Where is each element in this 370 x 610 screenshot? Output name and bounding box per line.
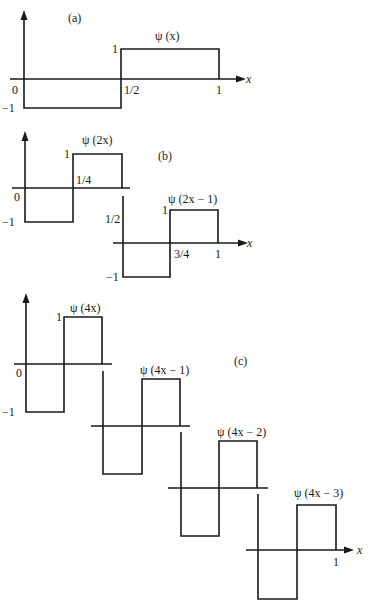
haar-waveform [258, 505, 336, 599]
arrow-up-icon [22, 131, 29, 141]
haar-wavelet-figure: (a)xψ (x)0−111/21(b)ψ (2x)0−111/4xψ (2x … [0, 0, 370, 610]
tick-label: −1 [2, 101, 15, 115]
wavelet-plot: xψ (4x − 3)1 [246, 486, 363, 599]
arrow-right-icon [344, 547, 354, 554]
tick-label: 1 [216, 83, 222, 97]
tick-label: 0 [12, 83, 18, 97]
tick-label: 3/4 [174, 247, 189, 261]
panel-a: (a)xψ (x)0−111/21 [2, 10, 252, 115]
wavelet-diagram-canvas: (a)xψ (x)0−111/21(b)ψ (2x)0−111/4xψ (2x … [0, 0, 370, 610]
panel-label: (a) [68, 11, 81, 25]
function-title: ψ (x) [155, 29, 180, 43]
tick-label: 1/2 [124, 83, 139, 97]
wavelet-plot: ψ (4x − 1) [91, 363, 190, 474]
function-title: ψ (2x) [82, 133, 113, 147]
tick-label: 1 [56, 310, 62, 324]
tick-label: 1 [112, 42, 118, 56]
panel-label: (c) [234, 354, 247, 368]
tick-label: 1 [64, 147, 70, 161]
tick-label: 1/2 [105, 212, 120, 226]
x-axis-label: x [246, 236, 253, 250]
arrow-up-icon [23, 293, 30, 303]
arrow-right-icon [236, 76, 246, 83]
arrow-up-icon [21, 10, 28, 20]
tick-label: 0 [14, 190, 20, 204]
x-axis-label: x [245, 72, 252, 86]
function-title: ψ (4x − 1) [140, 363, 189, 377]
wavelet-plot: xψ (2x − 1)1/2−113/41 [105, 192, 253, 284]
x-axis-label: x [356, 543, 363, 557]
function-title: ψ (4x) [70, 301, 101, 315]
tick-label: −1 [2, 215, 15, 229]
panel-c: (c)ψ (4x)0−11ψ (4x − 1)ψ (4x − 2)xψ (4x … [2, 293, 363, 599]
function-title: ψ (4x − 2) [217, 425, 266, 439]
function-title: ψ (4x − 3) [294, 486, 343, 500]
function-title: ψ (2x − 1) [168, 192, 217, 206]
wavelet-plot: xψ (x)0−111/21 [2, 10, 252, 115]
wavelet-plot: ψ (4x)0−11 [2, 293, 112, 419]
tick-label: −1 [106, 270, 119, 284]
tick-label: 1 [162, 203, 168, 217]
tick-label: 1/4 [76, 173, 91, 187]
panel-b: (b)ψ (2x)0−111/4xψ (2x − 1)1/2−113/41 [2, 131, 253, 284]
panel-label: (b) [158, 149, 172, 163]
tick-label: 1 [215, 247, 221, 261]
tick-label: 0 [16, 366, 22, 380]
wavelet-plot: ψ (4x − 2) [168, 425, 268, 536]
tick-label: −1 [2, 405, 15, 419]
tick-label: 1 [333, 555, 339, 569]
